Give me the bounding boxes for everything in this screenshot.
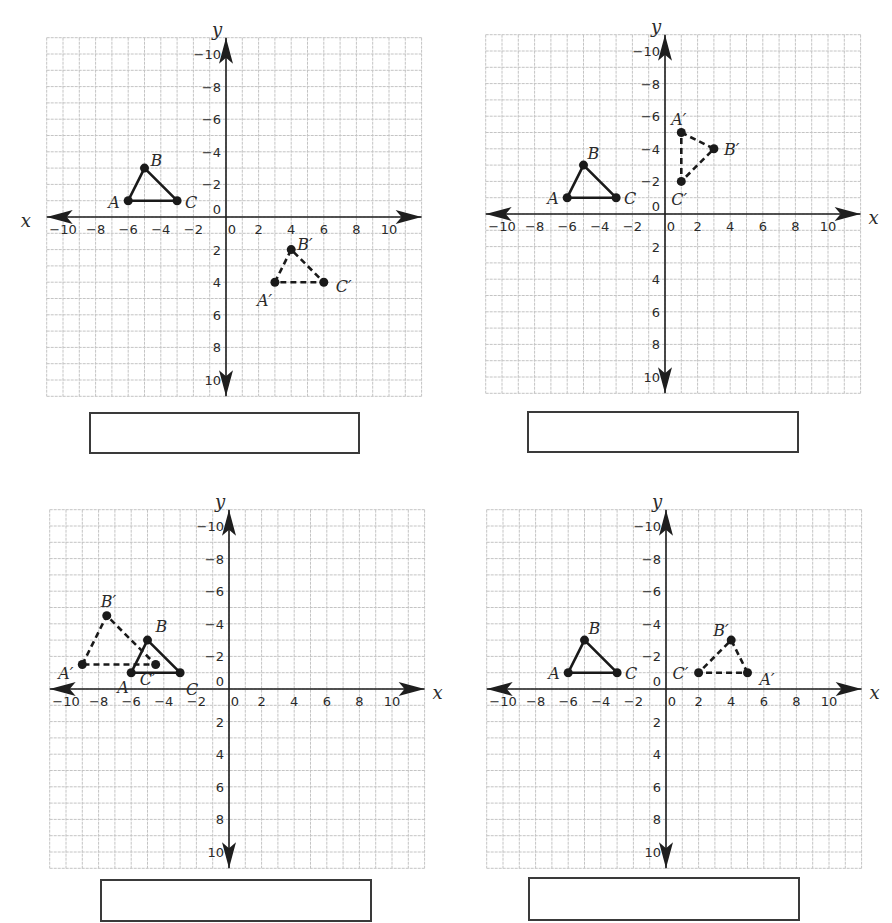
svg-text:−4: −4 bbox=[642, 617, 661, 632]
svg-text:4: 4 bbox=[653, 747, 661, 762]
svg-text:10: 10 bbox=[644, 845, 661, 860]
answer-box-1[interactable] bbox=[89, 412, 360, 454]
svg-text:8: 8 bbox=[792, 694, 800, 709]
answer-box-4[interactable] bbox=[528, 877, 800, 921]
y-axis-label: y bbox=[651, 491, 663, 512]
svg-text:−10: −10 bbox=[634, 519, 661, 534]
svg-text:−8: −8 bbox=[642, 552, 661, 567]
vertex-label: B bbox=[588, 619, 601, 638]
svg-text:2: 2 bbox=[653, 715, 661, 730]
vertex-point bbox=[743, 668, 752, 677]
svg-text:−10: −10 bbox=[489, 694, 516, 709]
svg-text:6: 6 bbox=[760, 694, 768, 709]
svg-text:8: 8 bbox=[653, 812, 661, 827]
svg-text:−6: −6 bbox=[642, 584, 661, 599]
svg-text:−4: −4 bbox=[591, 694, 610, 709]
svg-text:−8: −8 bbox=[526, 694, 545, 709]
vertex-label: C bbox=[625, 664, 637, 683]
vertex-label: B′ bbox=[712, 621, 729, 640]
vertex-label: A′ bbox=[758, 670, 776, 689]
svg-text:6: 6 bbox=[653, 780, 661, 795]
svg-text:10: 10 bbox=[821, 694, 838, 709]
x-axis-label: x bbox=[870, 682, 880, 703]
vertex-label: A bbox=[546, 664, 560, 683]
svg-text:0: 0 bbox=[668, 694, 676, 709]
svg-text:−2: −2 bbox=[642, 649, 661, 664]
vertex-point bbox=[694, 668, 703, 677]
svg-text:4: 4 bbox=[727, 694, 735, 709]
vertex-point bbox=[613, 668, 622, 677]
svg-text:2: 2 bbox=[694, 694, 702, 709]
svg-text:−6: −6 bbox=[559, 694, 578, 709]
answer-box-2[interactable] bbox=[527, 411, 799, 453]
vertex-point bbox=[564, 668, 573, 677]
svg-text:0: 0 bbox=[653, 674, 661, 689]
vertex-label: C′ bbox=[673, 664, 689, 683]
axes bbox=[487, 510, 862, 869]
answer-box-3[interactable] bbox=[100, 879, 372, 922]
svg-text:−2: −2 bbox=[624, 694, 643, 709]
